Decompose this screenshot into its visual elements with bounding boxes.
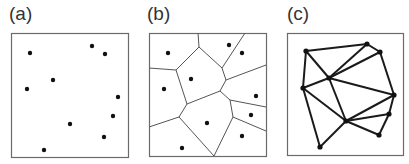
voronoi-edge [214,117,233,156]
voronoi-edge [149,68,176,70]
voronoi-edge [149,117,179,127]
site-point [166,51,170,55]
site-point [102,135,106,139]
site-point [162,87,166,91]
site-point [391,92,396,97]
site-point [240,134,244,138]
voronoi-edge [199,47,222,68]
site-point [111,114,115,118]
voronoi-edge [226,65,266,80]
site-point [326,75,331,80]
voronoi-edge [233,117,266,131]
voronoi-edge [176,70,187,104]
site-point [254,94,258,98]
voronoi-edge [198,33,199,47]
delaunay-edge [303,51,306,88]
delaunay-edge [320,121,346,147]
site-point [317,144,322,149]
site-point [377,49,382,54]
site-point [180,146,184,150]
site-point [116,95,120,99]
voronoi-edge [187,91,220,104]
site-point [343,118,348,123]
delaunay-edge [380,52,394,95]
site-point [205,121,209,125]
voronoi-edge [179,104,187,117]
delaunay-edge [306,51,329,78]
panel-a-random-points [12,34,129,158]
site-point [386,111,391,116]
figure-canvas [0,0,409,164]
delaunay-edge [303,88,320,147]
site-point [51,78,55,82]
site-point [364,41,369,46]
voronoi-edge [220,91,230,100]
delaunay-edge [306,44,367,51]
voronoi-edge [220,80,226,91]
site-point [240,51,244,55]
site-point [376,132,381,137]
site-point [300,85,305,90]
site-point [189,77,193,81]
delaunay-edge [329,78,394,95]
site-point [103,52,107,56]
voronoi-edge [222,68,226,80]
voronoi-edge [222,33,245,68]
site-point [303,48,308,53]
voronoi-edge [230,100,233,117]
site-point [68,122,72,126]
delaunay-edge [303,78,329,88]
site-point [25,87,29,91]
delaunay-edge [379,114,389,135]
site-point [28,51,32,55]
site-point [90,44,94,48]
voronoi-edge [176,47,199,70]
panel-c-delaunay-triangulation [288,34,404,156]
site-point [42,148,46,152]
panel-b-voronoi-diagram [149,33,267,157]
delaunay-edge [346,121,379,135]
site-point [227,43,231,47]
voronoi-edge [230,100,266,107]
site-point [249,113,253,117]
